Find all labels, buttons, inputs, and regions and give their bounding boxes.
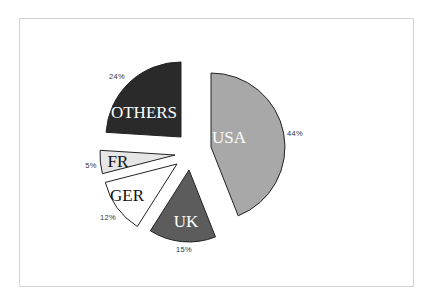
slice-label-uk: UK <box>174 212 199 231</box>
percent-label-ger: 12% <box>100 213 116 222</box>
slice-label-others: OTHERS <box>111 103 177 122</box>
percent-label-fr: 5% <box>85 161 96 170</box>
slice-label-ger: GER <box>110 186 145 205</box>
percent-label-usa: 44% <box>287 129 303 138</box>
slice-label-usa: USA <box>212 128 247 147</box>
pie-chart: USA44%UK15%GER12%FR5%OTHERS24% <box>0 0 431 308</box>
percent-label-uk: 15% <box>176 245 192 254</box>
slice-label-fr: FR <box>108 152 129 171</box>
percent-label-others: 24% <box>109 72 125 81</box>
